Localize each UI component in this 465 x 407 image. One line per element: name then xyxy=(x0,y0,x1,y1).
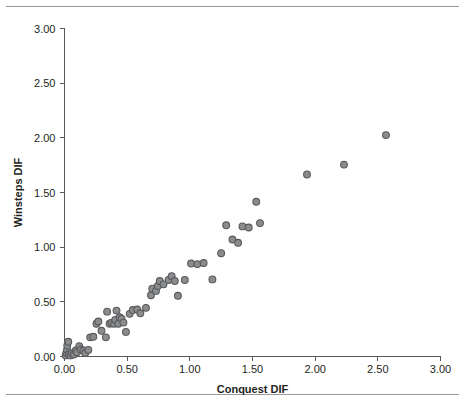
data-point xyxy=(65,338,72,345)
data-point xyxy=(253,198,260,205)
data-point xyxy=(239,223,246,230)
data-point xyxy=(95,318,102,325)
x-tick-label: 0.50 xyxy=(116,363,137,375)
y-tick-label: 0.50 xyxy=(34,296,55,308)
data-point xyxy=(341,161,348,168)
x-tick-label: 2.00 xyxy=(304,363,325,375)
data-point xyxy=(85,347,92,354)
data-point xyxy=(209,276,216,283)
data-point xyxy=(113,307,120,314)
data-point xyxy=(102,334,109,341)
x-tick-label: 3.00 xyxy=(430,363,451,375)
data-point xyxy=(257,220,264,227)
data-point xyxy=(143,304,150,311)
scatter-plot: 0.000.501.001.502.002.503.000.000.501.00… xyxy=(0,0,465,407)
data-point xyxy=(123,329,130,336)
data-point xyxy=(200,260,207,267)
data-point xyxy=(98,327,105,334)
y-tick-label: 1.00 xyxy=(34,241,55,253)
data-point xyxy=(137,310,144,317)
data-points-group xyxy=(62,132,389,359)
y-tick-label: 3.00 xyxy=(34,23,55,35)
x-tick-label: 0.00 xyxy=(54,363,75,375)
x-axis-title: Conquest DIF xyxy=(217,383,289,395)
data-point xyxy=(90,333,97,340)
data-point xyxy=(304,171,311,178)
x-tick-label: 2.50 xyxy=(367,363,388,375)
data-point xyxy=(383,132,390,139)
y-tick-label: 1.50 xyxy=(34,187,55,199)
y-tick-label: 2.00 xyxy=(34,132,55,144)
figure-container: 0.000.501.001.502.002.503.000.000.501.00… xyxy=(0,0,465,407)
data-point xyxy=(175,292,182,299)
data-point xyxy=(218,250,225,257)
data-point xyxy=(223,222,230,229)
x-tick-label: 1.50 xyxy=(242,363,263,375)
data-point xyxy=(120,319,127,326)
data-point xyxy=(181,277,188,284)
data-point xyxy=(194,261,201,268)
y-tick-label: 0.00 xyxy=(34,351,55,363)
y-axis-title: Winsteps DIF xyxy=(12,157,24,227)
data-point xyxy=(104,308,111,315)
data-point xyxy=(171,278,178,285)
data-point xyxy=(245,224,252,231)
data-point xyxy=(235,239,242,246)
x-tick-label: 1.00 xyxy=(179,363,200,375)
y-tick-label: 2.50 xyxy=(34,77,55,89)
